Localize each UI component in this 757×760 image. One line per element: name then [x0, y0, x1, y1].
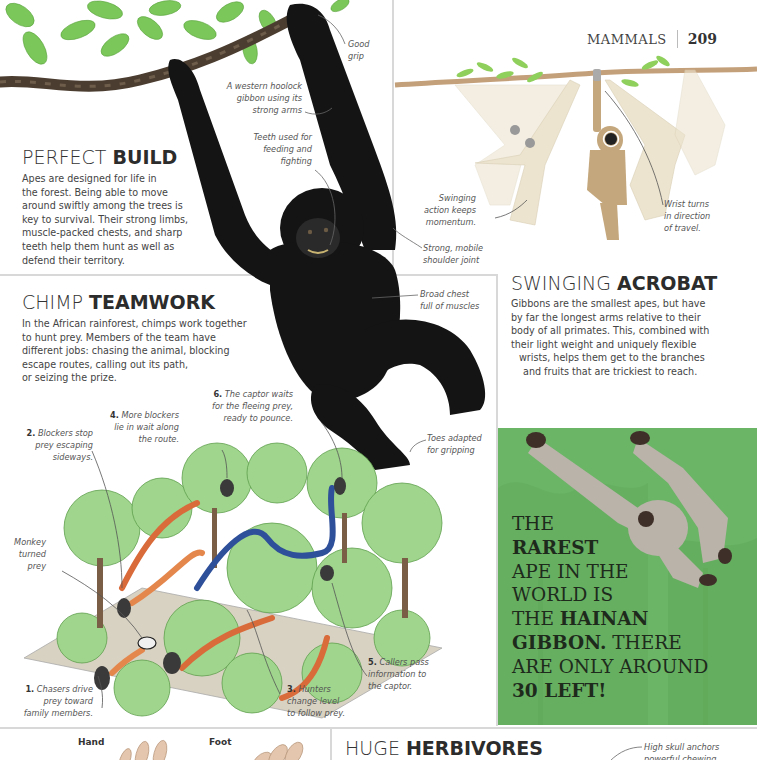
- body-line: by far the longest arms relative to thei…: [511, 311, 751, 325]
- body-line: Gibbons are the smallest apes, but have: [511, 297, 751, 311]
- fact-line: Are only around: [512, 655, 708, 679]
- step-number: 1.: [25, 684, 34, 694]
- label-line: A western hoolock: [210, 80, 302, 92]
- step-number: 4.: [110, 410, 119, 420]
- header-divider: [677, 30, 678, 48]
- body-line: In the African rainforest, chimps work t…: [22, 317, 262, 331]
- label-line: to follow prey.: [287, 707, 345, 719]
- label-line: the captor.: [368, 680, 429, 692]
- step-number: 6.: [213, 389, 222, 399]
- label-line: More blockers: [122, 410, 179, 420]
- label-line: grip: [348, 50, 370, 62]
- running-head: MAMMALS 209: [587, 30, 717, 48]
- label-line: gibbon using its: [210, 92, 302, 104]
- label-line: full of muscles: [420, 300, 479, 312]
- label-wrist-turns: Wrist turns in direction of travel.: [664, 198, 710, 234]
- label-good-grip: Good grip: [348, 38, 370, 62]
- body-line: and fruits that are trickiest to reach.: [511, 365, 751, 379]
- fact-line: Ape in the: [512, 560, 708, 584]
- label-photo-caption: A western hoolock gibbon using its stron…: [210, 80, 302, 116]
- fact-word: The: [512, 513, 554, 534]
- label-line: ready to pounce.: [195, 412, 293, 424]
- label-line: of travel.: [664, 222, 710, 234]
- label-line: Hunters: [298, 684, 330, 694]
- step-number: 2.: [26, 428, 35, 438]
- heading-bold: ACROBAT: [617, 272, 717, 294]
- label-line: Swinging: [416, 192, 476, 204]
- chimp-teamwork-body: In the African rainforest, chimps work t…: [22, 317, 262, 385]
- monkey-prey-label: Monkey turned prey: [2, 536, 46, 572]
- fact-line: 30 Left!: [512, 679, 708, 703]
- body-line: defend their territory.: [22, 254, 212, 268]
- swinging-acrobat-heading: SWINGING ACROBAT: [511, 272, 717, 294]
- hand-label: Hand: [78, 737, 104, 747]
- foot-label: Foot: [209, 737, 231, 747]
- fact-word: There: [606, 632, 681, 653]
- fact-line: The Hainan: [512, 607, 708, 631]
- step-6-label: 6. The captor waits for the fleeing prey…: [195, 388, 293, 424]
- heading-bold: HERBIVORES: [406, 737, 543, 759]
- label-line: prey escaping: [10, 439, 93, 451]
- hainan-gibbon-fact-box: The Rarest Ape in the World is The Haina…: [498, 428, 757, 725]
- perfect-build-body: Apes are designed for life in the forest…: [22, 172, 212, 267]
- label-line: Teeth used for: [222, 131, 312, 143]
- label-line: in direction: [664, 210, 710, 222]
- body-line: body of all primates. This, combined wit…: [511, 324, 751, 338]
- body-line: different jobs: chasing the animal, bloc…: [22, 344, 262, 358]
- label-line: change level: [287, 695, 345, 707]
- perfect-build-heading: PERFECT BUILD: [22, 146, 177, 168]
- label-line: Chasers drive: [37, 684, 93, 694]
- body-line: or seizing the prize.: [22, 371, 262, 385]
- body-line: Apes are designed for life in: [22, 172, 212, 186]
- step-1-label: 1. Chasers drive prey toward family memb…: [10, 683, 93, 719]
- label-line: turned: [2, 548, 46, 560]
- skull-leader-line: [606, 745, 646, 760]
- fact-line: World is: [512, 583, 708, 607]
- label-line: Broad chest: [420, 288, 479, 300]
- label-line: Callers pass: [379, 657, 428, 667]
- foot-illustration: [244, 740, 344, 760]
- heading-light: HUGE: [345, 737, 400, 759]
- fact-word: Are only around: [512, 656, 708, 677]
- step-number: 5.: [368, 657, 377, 667]
- fact-line: Rarest: [512, 536, 708, 560]
- fact-word-bold: 30 Left!: [512, 680, 606, 701]
- heading-light: SWINGING: [511, 272, 611, 294]
- label-line: The captor waits: [225, 389, 293, 399]
- body-line: teeth help them hunt as well as: [22, 240, 212, 254]
- fact-word-bold: Hainan: [560, 608, 649, 629]
- fact-word-bold: Rarest: [512, 537, 598, 558]
- label-line: strong arms: [210, 104, 302, 116]
- label-line: prey toward: [10, 695, 93, 707]
- body-line: key to survival. Their strong limbs,: [22, 213, 212, 227]
- label-teeth: Teeth used for feeding and fighting: [222, 131, 312, 167]
- page-number: 209: [688, 31, 717, 47]
- fact-text: The Rarest Ape in the World is The Haina…: [512, 512, 708, 702]
- heading-bold: TEAMWORK: [89, 291, 215, 313]
- label-swinging-momentum: Swinging action keeps momentum.: [416, 192, 476, 228]
- body-line: escape routes, calling out its path,: [22, 358, 262, 372]
- label-line: Good: [348, 38, 370, 50]
- body-line: around swiftly among the trees is: [22, 199, 212, 213]
- fact-word: The: [512, 608, 560, 629]
- step-4-label: 4. More blockers lie in wait along the r…: [90, 409, 179, 445]
- label-line: feeding and: [222, 143, 312, 155]
- label-line: Monkey: [2, 536, 46, 548]
- body-line: wrists, helps them get to the branches: [511, 351, 751, 365]
- label-line: fighting: [222, 155, 312, 167]
- heading-bold: BUILD: [113, 146, 178, 168]
- heading-light: CHIMP: [22, 291, 83, 313]
- label-line: for the fleeing prey,: [195, 400, 293, 412]
- section-title: MAMMALS: [587, 32, 667, 47]
- body-line: the forest. Being able to move: [22, 186, 212, 200]
- step-2-label: 2. Blockers stop prey escaping sideways.: [10, 427, 93, 463]
- label-line: shoulder joint: [423, 254, 483, 266]
- label-line: prey: [2, 560, 46, 572]
- step-number: 3.: [287, 684, 296, 694]
- fact-word-bold: Gibbon.: [512, 632, 606, 653]
- fact-line: Gibbon. There: [512, 631, 708, 655]
- fact-line: The: [512, 512, 708, 536]
- label-line: Wrist turns: [664, 198, 710, 210]
- label-line: action keeps: [416, 204, 476, 216]
- step-5-label: 5. Callers pass information to the capto…: [368, 656, 429, 692]
